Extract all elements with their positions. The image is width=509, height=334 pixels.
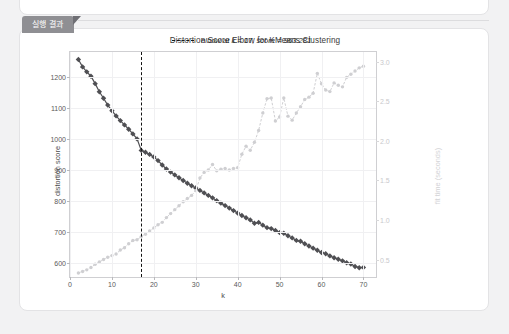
data-point — [353, 69, 356, 72]
x-tick-mark — [196, 277, 197, 280]
data-point — [92, 81, 97, 86]
result-tab[interactable]: 실행 결과 — [22, 16, 81, 33]
data-point — [298, 239, 303, 244]
y2-tick-mark — [376, 141, 379, 142]
gridline-vertical — [280, 52, 281, 277]
data-point — [341, 85, 344, 88]
gridline-vertical — [154, 52, 155, 277]
data-point — [257, 129, 260, 132]
x-tick-mark — [112, 277, 113, 280]
data-point — [352, 264, 357, 269]
data-point — [123, 246, 126, 249]
y-tick-label: 1200 — [50, 73, 66, 80]
data-point — [119, 248, 122, 251]
data-point — [270, 96, 273, 99]
data-point — [127, 242, 130, 245]
data-point — [337, 84, 340, 87]
x-tick-label: 60 — [318, 281, 326, 288]
data-point — [227, 205, 232, 210]
data-point — [177, 204, 180, 207]
data-point — [282, 96, 285, 99]
x-tick-mark — [70, 277, 71, 280]
x-tick-mark — [280, 277, 281, 280]
data-point — [244, 145, 247, 148]
gridline-vertical — [70, 52, 71, 277]
y2-tick-mark — [376, 180, 379, 181]
data-point — [81, 270, 84, 273]
data-point — [358, 66, 361, 69]
chart-title: Distortion Score Elbow for KMeans Cluste… — [20, 36, 490, 45]
data-point — [328, 90, 331, 93]
y-tick-label: 1000 — [50, 135, 66, 142]
y2-tick-label: 2.0 — [380, 137, 390, 144]
data-point — [295, 111, 298, 114]
elbow-chart: Distortion Score Elbow for KMeans Cluste… — [20, 29, 490, 312]
data-point — [198, 176, 201, 179]
data-point — [316, 72, 319, 75]
x-tick-mark — [363, 277, 364, 280]
y-tick-label: 600 — [54, 260, 66, 267]
gridline-horizontal — [70, 108, 376, 109]
data-point — [253, 141, 256, 144]
y2-tick-mark — [376, 101, 379, 102]
data-point — [294, 238, 299, 243]
tab-divider — [78, 20, 489, 21]
gridline-horizontal — [70, 170, 376, 171]
series-layer — [70, 52, 376, 277]
data-point — [186, 197, 189, 200]
result-card: Distortion Score Elbow for KMeans Cluste… — [19, 28, 489, 311]
data-point — [114, 252, 117, 255]
data-point — [173, 208, 176, 211]
data-point — [165, 216, 168, 219]
data-point — [102, 258, 105, 261]
data-point — [249, 149, 252, 152]
data-point — [286, 114, 289, 117]
gridline-vertical — [322, 52, 323, 277]
data-point — [106, 255, 109, 258]
data-point — [89, 266, 92, 269]
gridline-vertical — [196, 52, 197, 277]
gridline-vertical — [363, 52, 364, 277]
gridline-horizontal — [70, 201, 376, 202]
data-point — [311, 92, 314, 95]
y2-tick-label: 2.5 — [380, 98, 390, 105]
x-tick-label: 70 — [360, 281, 368, 288]
x-tick-mark — [238, 277, 239, 280]
gridline-vertical — [238, 52, 239, 277]
data-point — [307, 95, 310, 98]
data-point — [303, 98, 306, 101]
plot-area: 6007008009001000110012000.51.01.52.02.53… — [69, 51, 377, 278]
data-point — [202, 171, 205, 174]
data-point — [332, 81, 335, 84]
y2-tick-mark — [376, 62, 379, 63]
x-tick-mark — [322, 277, 323, 280]
x-tick-label: 50 — [276, 281, 284, 288]
data-point — [206, 193, 211, 198]
data-point — [240, 153, 243, 156]
gridline-vertical — [112, 52, 113, 277]
elbow-vline — [141, 52, 142, 277]
x-axis-label: k — [69, 291, 377, 300]
data-point — [169, 212, 172, 215]
data-point — [190, 194, 193, 197]
y-tick-label: 700 — [54, 229, 66, 236]
x-tick-label: 30 — [192, 281, 200, 288]
data-point — [131, 239, 134, 242]
data-point — [265, 97, 268, 100]
data-point — [222, 203, 227, 208]
gridline-horizontal — [70, 263, 376, 264]
data-point — [264, 225, 269, 230]
x-tick-label: 20 — [150, 281, 158, 288]
y2-tick-label: 1.5 — [380, 177, 390, 184]
data-point — [197, 188, 202, 193]
y2-tick-label: 1.0 — [380, 216, 390, 223]
y2-tick-label: 0.5 — [380, 256, 390, 263]
x-tick-label: 40 — [234, 281, 242, 288]
data-point — [349, 72, 352, 75]
data-point — [156, 223, 159, 226]
data-point — [85, 268, 88, 271]
data-point — [161, 221, 164, 224]
data-point — [201, 190, 206, 195]
gridline-horizontal — [70, 232, 376, 233]
y-tick-label: 800 — [54, 197, 66, 204]
